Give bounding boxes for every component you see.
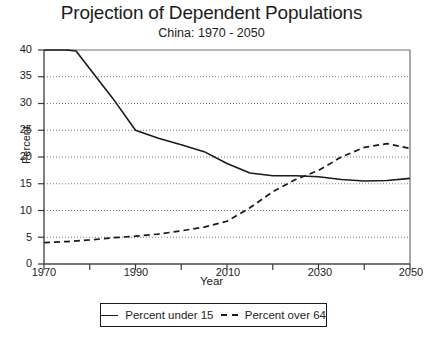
legend-label-percent-over-64: Percent over 64: [245, 309, 326, 321]
legend-label-percent-under-15: Percent under 15: [125, 309, 213, 321]
x-axis-ticks: [44, 264, 410, 270]
y-axis-ticks: [38, 50, 44, 264]
series-line-percent-over-64: [44, 144, 410, 243]
legend-swatch-solid-icon: [101, 315, 118, 316]
series-line-percent-under-15: [44, 50, 410, 181]
chart-legend: Percent under 15 Percent over 64: [100, 303, 327, 327]
grid-lines: [44, 77, 410, 238]
legend-swatch-dashed-icon: [221, 314, 238, 316]
